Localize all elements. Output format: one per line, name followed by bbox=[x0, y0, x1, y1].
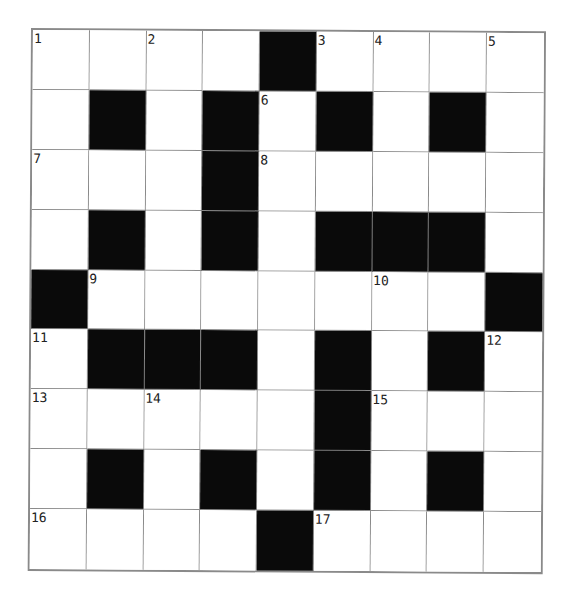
black-square bbox=[372, 212, 429, 272]
clue-number: 15 bbox=[372, 393, 388, 406]
clue-number: 9 bbox=[89, 272, 97, 285]
clue-number: 12 bbox=[486, 334, 502, 347]
crossword-cell[interactable] bbox=[201, 271, 258, 331]
clue-number: 5 bbox=[488, 35, 496, 48]
crossword-cell[interactable] bbox=[32, 90, 89, 150]
crossword-cell[interactable] bbox=[87, 390, 144, 450]
crossword-cell[interactable] bbox=[203, 31, 260, 91]
crossword-cell[interactable] bbox=[315, 271, 372, 331]
black-square bbox=[87, 450, 144, 510]
black-square bbox=[88, 210, 145, 270]
black-square bbox=[203, 91, 260, 151]
crossword-cell[interactable]: 10 bbox=[372, 272, 429, 332]
crossword-cell[interactable] bbox=[32, 210, 89, 270]
crossword-cell[interactable] bbox=[430, 32, 487, 92]
clue-number: 10 bbox=[373, 274, 389, 287]
crossword-cell[interactable]: 4 bbox=[373, 32, 430, 92]
black-square bbox=[428, 332, 485, 392]
clue-number: 11 bbox=[32, 331, 48, 344]
black-square bbox=[144, 330, 201, 390]
crossword-grid: 1234567891011121314151617 bbox=[28, 28, 546, 574]
crossword-cell[interactable] bbox=[257, 451, 314, 511]
clue-number: 3 bbox=[318, 34, 326, 47]
black-square bbox=[89, 90, 146, 150]
crossword-cell[interactable] bbox=[146, 91, 203, 151]
clue-number: 1 bbox=[34, 32, 42, 45]
crossword-cell[interactable] bbox=[371, 451, 428, 511]
black-square bbox=[316, 92, 373, 152]
clue-number: 2 bbox=[147, 33, 155, 46]
clue-number: 4 bbox=[375, 34, 383, 47]
crossword-cell[interactable]: 15 bbox=[371, 391, 428, 451]
black-square bbox=[202, 151, 259, 211]
crossword-cell[interactable] bbox=[201, 390, 258, 450]
black-square bbox=[314, 451, 371, 511]
crossword-cell[interactable] bbox=[373, 92, 430, 152]
crossword-cell[interactable] bbox=[143, 510, 200, 570]
crossword-cell[interactable] bbox=[145, 150, 202, 210]
clue-number: 6 bbox=[261, 93, 269, 106]
crossword-cell[interactable]: 16 bbox=[30, 509, 87, 569]
clue-number: 8 bbox=[260, 153, 268, 166]
crossword-cell[interactable]: 14 bbox=[144, 390, 201, 450]
black-square bbox=[314, 391, 371, 451]
crossword-cell[interactable] bbox=[429, 272, 486, 332]
crossword-cell[interactable]: 8 bbox=[259, 151, 316, 211]
crossword-cell[interactable] bbox=[484, 512, 541, 572]
black-square bbox=[427, 452, 484, 512]
crossword-cell[interactable]: 1 bbox=[33, 30, 90, 90]
crossword-cell[interactable] bbox=[484, 452, 541, 512]
crossword-cell[interactable] bbox=[258, 331, 315, 391]
crossword-cell[interactable] bbox=[373, 152, 430, 212]
clue-number: 7 bbox=[33, 152, 41, 165]
crossword-cell[interactable]: 17 bbox=[314, 511, 371, 571]
clue-number: 14 bbox=[145, 392, 161, 405]
crossword-cell[interactable] bbox=[370, 511, 427, 571]
crossword-cell[interactable] bbox=[145, 270, 202, 330]
crossword-cell[interactable] bbox=[486, 153, 543, 213]
crossword-cell[interactable] bbox=[258, 391, 315, 451]
crossword-cell[interactable] bbox=[259, 211, 316, 271]
crossword-cell[interactable]: 3 bbox=[316, 32, 373, 92]
black-square bbox=[88, 330, 145, 390]
black-square bbox=[257, 510, 314, 570]
clue-number: 13 bbox=[32, 391, 48, 404]
crossword-cell[interactable]: 12 bbox=[485, 332, 542, 392]
crossword-cell[interactable]: 6 bbox=[259, 91, 316, 151]
crossword-cell[interactable] bbox=[89, 30, 146, 90]
crossword-cell[interactable] bbox=[258, 271, 315, 331]
crossword-cell[interactable] bbox=[486, 93, 543, 153]
crossword-cell[interactable]: 5 bbox=[487, 33, 544, 93]
crossword-cell[interactable] bbox=[428, 392, 485, 452]
crossword-cell[interactable] bbox=[371, 332, 428, 392]
crossword-cell[interactable]: 11 bbox=[31, 329, 88, 389]
clue-number: 16 bbox=[31, 511, 47, 524]
black-square bbox=[201, 330, 258, 390]
black-square bbox=[202, 211, 259, 271]
crossword-cell[interactable] bbox=[30, 449, 87, 509]
crossword-cell[interactable] bbox=[86, 509, 143, 569]
black-square bbox=[200, 450, 257, 510]
crossword-cell[interactable] bbox=[144, 450, 201, 510]
black-square bbox=[430, 92, 487, 152]
crossword-cell[interactable] bbox=[200, 510, 257, 570]
crossword-cell[interactable] bbox=[486, 212, 543, 272]
crossword-cell[interactable] bbox=[485, 392, 542, 452]
black-square bbox=[315, 211, 372, 271]
crossword-cell[interactable]: 2 bbox=[146, 31, 203, 91]
crossword-cell[interactable] bbox=[427, 512, 484, 572]
black-square bbox=[429, 212, 486, 272]
crossword-cell[interactable]: 13 bbox=[30, 389, 87, 449]
crossword-cell[interactable] bbox=[316, 152, 373, 212]
black-square bbox=[31, 270, 88, 330]
black-square bbox=[315, 331, 372, 391]
crossword-cell[interactable] bbox=[89, 150, 146, 210]
clue-number: 17 bbox=[315, 513, 331, 526]
black-square bbox=[485, 272, 542, 332]
crossword-cell[interactable] bbox=[429, 152, 486, 212]
crossword-cell[interactable] bbox=[145, 210, 202, 270]
black-square bbox=[260, 31, 317, 91]
crossword-cell[interactable]: 9 bbox=[88, 270, 145, 330]
crossword-cell[interactable]: 7 bbox=[32, 150, 89, 210]
